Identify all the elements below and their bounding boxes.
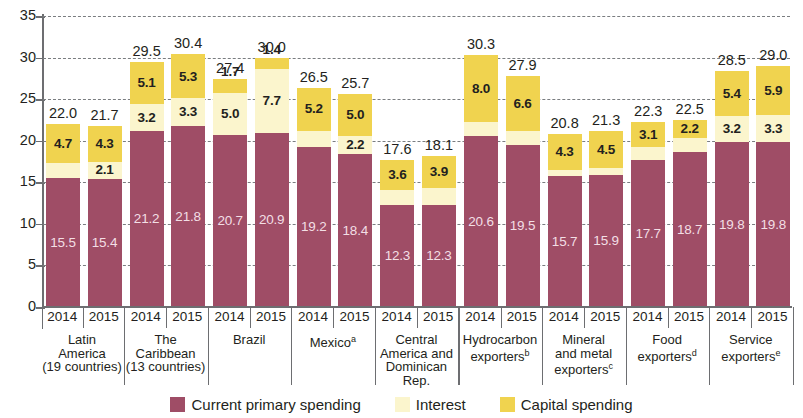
bar-segment-current-primary-spending[interactable]: 21.8	[171, 126, 205, 307]
bar-segment-capital-spending[interactable]: 3.9	[422, 156, 456, 188]
bar-stack[interactable]: 15.42.14.321.7	[88, 16, 122, 307]
segment-value-label: 17.7	[635, 227, 660, 241]
bar-segment-interest[interactable]: 3.2	[130, 104, 164, 131]
bar-segment-capital-spending[interactable]: 4.3	[548, 134, 582, 170]
bar-segment-current-primary-spending[interactable]: 17.7	[631, 160, 665, 307]
bar-segment-capital-spending[interactable]: 4.3	[88, 126, 122, 162]
bar-segment-interest[interactable]: 1.7	[464, 122, 498, 136]
bar-stack[interactable]: 19.83.25.428.5	[715, 16, 749, 307]
bar-segment-current-primary-spending[interactable]: 12.3	[380, 205, 414, 307]
bar-segment-current-primary-spending[interactable]: 19.5	[506, 145, 540, 307]
segment-value-label: 12.3	[385, 249, 410, 263]
group-label-line: Latin	[41, 333, 124, 347]
bar-segment-current-primary-spending[interactable]: 19.8	[756, 142, 790, 307]
bar-stack[interactable]: 12.32.03.918.1	[422, 16, 456, 307]
bar-segment-interest[interactable]: 3.2	[715, 116, 749, 143]
bar-total-label: 18.1	[425, 137, 453, 153]
bar-segment-interest[interactable]: 1.8	[380, 190, 414, 205]
group-label-line: Service	[709, 333, 792, 347]
bar-segment-capital-spending[interactable]: 5.2	[297, 88, 331, 131]
bar-segment-interest[interactable]: 0.8	[589, 168, 623, 175]
bar-segment-interest[interactable]: 0.8	[548, 170, 582, 177]
bar-stack[interactable]: 19.83.35.929.0	[756, 16, 790, 307]
bar-stack[interactable]: 20.75.01.727.4	[213, 16, 247, 307]
bar-segment-current-primary-spending[interactable]: 12.3	[422, 205, 456, 307]
bar-stack[interactable]: 12.31.83.617.6	[380, 16, 414, 307]
x-axis-year-label: 2015	[83, 309, 125, 324]
bar-segment-interest[interactable]: 1.5	[631, 147, 665, 159]
bar-segment-interest[interactable]: 7.7	[255, 69, 289, 133]
bar-segment-current-primary-spending[interactable]: 15.4	[88, 179, 122, 307]
bar-segment-capital-spending[interactable]: 8.0	[464, 55, 498, 122]
bar-segment-current-primary-spending[interactable]: 15.7	[548, 176, 582, 307]
bar-segment-capital-spending[interactable]: 3.1	[631, 122, 665, 148]
bar-segment-interest[interactable]: 3.3	[756, 115, 790, 142]
bar-stack[interactable]: 19.51.76.627.9	[506, 16, 540, 307]
bar-segment-current-primary-spending[interactable]: 15.5	[46, 178, 80, 307]
bar-segment-capital-spending[interactable]: 5.9	[756, 66, 790, 115]
bar-total-label: 27.9	[508, 57, 536, 73]
bar-stack[interactable]: 15.90.84.521.3	[589, 16, 623, 307]
bar-segment-current-primary-spending[interactable]: 19.2	[297, 147, 331, 307]
bar-stack[interactable]: 21.83.35.330.4	[171, 16, 205, 307]
segment-value-label: 18.7	[677, 223, 702, 237]
bar-stack[interactable]: 18.42.25.025.7	[338, 16, 372, 307]
segment-value-label: 2.2	[681, 122, 699, 136]
segment-value-label: 19.8	[761, 218, 786, 232]
bar-segment-current-primary-spending[interactable]: 20.6	[464, 136, 498, 307]
bar-segment-interest[interactable]: 2.1	[88, 162, 122, 179]
bar-segment-current-primary-spending[interactable]: 19.8	[715, 142, 749, 307]
bar-segment-current-primary-spending[interactable]: 18.7	[673, 152, 707, 307]
bar-stack[interactable]: 18.71.62.222.5	[673, 16, 707, 307]
bar-segment-current-primary-spending[interactable]: 18.4	[338, 154, 372, 307]
bar-segment-current-primary-spending[interactable]: 20.7	[213, 135, 247, 307]
segment-value-label: 4.3	[95, 137, 113, 151]
bar-stack[interactable]: 20.97.71.430.0	[255, 16, 289, 307]
bar-segment-capital-spending[interactable]: 2.2	[673, 120, 707, 138]
x-axis-year-label: 2015	[585, 309, 627, 324]
bar-segment-capital-spending[interactable]: 4.5	[589, 131, 623, 168]
bar-total-label: 30.3	[467, 36, 495, 52]
x-axis-year-label: 2014	[543, 309, 585, 324]
legend-item[interactable]: Current primary spending	[170, 396, 360, 413]
segment-value-label: 5.4	[723, 87, 741, 101]
bar-segment-interest[interactable]: 2.0	[297, 131, 331, 148]
bar-segment-capital-spending[interactable]: 6.6	[506, 76, 540, 131]
bar-segment-current-primary-spending[interactable]: 15.9	[589, 175, 623, 307]
bar-segment-current-primary-spending[interactable]: 21.2	[130, 131, 164, 307]
bar-segment-current-primary-spending[interactable]: 20.9	[255, 133, 289, 307]
bar-segment-interest[interactable]: 1.6	[673, 138, 707, 151]
bar-segment-capital-spending[interactable]: 5.4	[715, 71, 749, 116]
bar-total-label: 30.4	[174, 35, 202, 51]
bar-segment-capital-spending[interactable]: 3.6	[380, 160, 414, 190]
group-label-line: Mexicoa	[291, 333, 374, 350]
bar-stack[interactable]: 20.61.78.030.3	[464, 16, 498, 307]
bar-stack[interactable]: 15.51.84.722.0	[46, 16, 80, 307]
bar-segment-interest[interactable]: 5.0	[213, 93, 247, 135]
bar-stack[interactable]: 17.71.53.122.3	[631, 16, 665, 307]
bar-stack[interactable]: 15.70.84.320.8	[548, 16, 582, 307]
bar-total-label: 22.3	[634, 103, 662, 119]
bar-segment-interest[interactable]: 2.0	[422, 188, 456, 205]
footnote-marker: b	[525, 348, 530, 358]
bar-segment-interest[interactable]: 1.8	[46, 163, 80, 178]
segment-value-label: 3.3	[764, 122, 782, 136]
bar-segment-interest[interactable]: 2.2	[338, 136, 372, 154]
bar-segment-interest[interactable]: 1.7	[506, 131, 540, 145]
bar-segment-capital-spending[interactable]: 1.4	[255, 58, 289, 70]
legend-item[interactable]: Capital spending	[500, 396, 633, 413]
bar-segment-capital-spending[interactable]: 5.0	[338, 94, 372, 136]
segment-value-label: 5.3	[179, 70, 197, 84]
legend-item[interactable]: Interest	[395, 396, 466, 413]
bar-segment-capital-spending[interactable]: 4.7	[46, 124, 80, 163]
bar-stack[interactable]: 19.22.05.226.5	[297, 16, 331, 307]
bar-segment-capital-spending[interactable]: 5.3	[171, 54, 205, 98]
bar-segment-capital-spending[interactable]: 5.1	[130, 62, 164, 104]
bar-segment-capital-spending[interactable]: 1.7	[213, 79, 247, 93]
bar-stack[interactable]: 21.23.25.129.5	[130, 16, 164, 307]
segment-value-label: 6.6	[513, 97, 531, 111]
bar-segment-interest[interactable]: 3.3	[171, 98, 205, 125]
group-label-line: Mineral	[542, 333, 625, 347]
y-axis-tick-label: 0	[6, 298, 36, 314]
x-axis-year-label: 2015	[167, 309, 209, 324]
